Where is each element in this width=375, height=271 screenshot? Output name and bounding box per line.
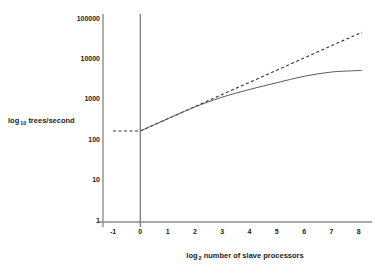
x-tick-label: 3 [220,228,224,235]
x-axis-title-log: log [186,251,197,260]
x-tick-label: 8 [357,228,361,235]
y-tick-label: 1000 [84,95,100,102]
y-tick-label: 10000 [81,55,101,62]
y-axis-title-log: log [8,116,19,125]
y-axis-title-subscript: 10 [20,120,26,126]
y-tick-label: 100000 [77,15,100,22]
y-axis-title-text: trees/second [28,116,74,125]
x-tick-label: 1 [166,228,170,235]
x-tick-label: 6 [302,228,306,235]
x-axis-title: log2number of slave processors [125,251,365,260]
x-tick-label: 2 [193,228,197,235]
measured-throughput-curve [140,70,362,131]
ideal-speedup-dashed-line [113,32,362,131]
x-tick-label: 7 [329,228,333,235]
speedup-figure: 110100100010000100000-1012345678 log10tr… [0,0,375,271]
y-tick-label: 10 [92,176,100,183]
chart-canvas: 110100100010000100000-1012345678 [0,0,375,271]
x-tick-label: 4 [248,228,252,235]
x-tick-label: -1 [110,228,116,235]
x-axis-title-text: number of slave processors [204,251,304,260]
y-axis-title: log10trees/second [8,116,75,125]
y-tick-label: 1 [96,217,100,224]
x-tick-label: 0 [138,228,142,235]
x-tick-label: 5 [275,228,279,235]
y-tick-label: 100 [88,136,100,143]
x-axis-title-subscript: 2 [199,255,202,261]
